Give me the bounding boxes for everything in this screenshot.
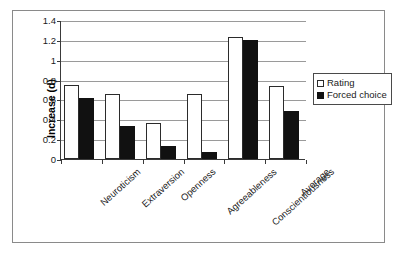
plot-area: [60, 21, 305, 160]
legend-item-rating: Rating: [317, 77, 387, 89]
y-axis-tick-mark: [57, 61, 61, 62]
bar-forced-choice: [161, 146, 176, 159]
y-axis-tick-label: 0.2: [43, 135, 56, 145]
y-axis-tick-label: 1: [51, 56, 56, 66]
gridline: [61, 41, 306, 42]
y-axis-title-text: Increase (d): [45, 79, 57, 138]
chart-figure: Increase (d) 00.20.40.60.811.21.4 Rating…: [0, 0, 401, 257]
gridline: [61, 81, 306, 82]
y-axis-tick-mark: [57, 81, 61, 82]
bar-forced-choice: [284, 111, 299, 159]
bar-forced-choice: [243, 40, 258, 159]
legend-label-forced-choice: Forced choice: [327, 90, 387, 100]
gridline: [61, 61, 306, 62]
bar-rating: [64, 85, 79, 159]
legend-item-forced-choice: Forced choice: [317, 89, 387, 101]
y-axis-tick-mark: [57, 120, 61, 121]
bar-rating: [187, 94, 202, 159]
legend-swatch-forced-choice-icon: [317, 92, 324, 99]
bar-rating: [228, 37, 243, 159]
legend-label-rating: Rating: [327, 78, 354, 88]
bar-rating: [146, 123, 161, 159]
x-axis-tick-mark: [143, 160, 144, 164]
chart-legend: Rating Forced choice: [313, 73, 392, 105]
y-axis-tick-mark: [57, 100, 61, 101]
x-axis-tick-mark: [306, 160, 307, 164]
y-axis-tick-mark: [57, 41, 61, 42]
x-axis-tick-mark: [61, 160, 62, 164]
y-axis-tick-label: 1.4: [43, 16, 56, 26]
bar-rating: [269, 86, 284, 159]
x-axis-tick-mark: [265, 160, 266, 164]
y-axis-tick-label: 0.6: [43, 95, 56, 105]
y-axis-tick-label: 1.2: [43, 36, 56, 46]
x-axis-tick-mark: [102, 160, 103, 164]
y-axis-tick-mark: [57, 140, 61, 141]
bar-rating: [105, 94, 120, 159]
y-axis-tick-label: 0: [51, 155, 56, 165]
y-axis-tick-label: 0.4: [43, 115, 56, 125]
bar-forced-choice: [79, 98, 94, 159]
x-axis-tick-mark: [224, 160, 225, 164]
gridline: [61, 21, 306, 22]
bar-forced-choice: [120, 126, 135, 159]
y-axis-tick-mark: [57, 21, 61, 22]
legend-swatch-rating-icon: [317, 80, 324, 87]
y-axis-tick-label: 0.8: [43, 76, 56, 86]
bar-forced-choice: [202, 152, 217, 159]
x-axis-tick-mark: [184, 160, 185, 164]
